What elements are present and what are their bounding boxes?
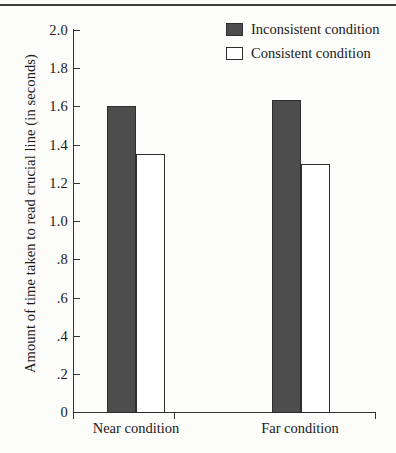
legend-swatch-dark-icon — [226, 23, 243, 36]
legend-label-consistent: Consistent condition — [251, 46, 371, 61]
x-label-far-condition: Far condition — [261, 421, 339, 436]
legend-swatch-light-icon — [226, 47, 243, 60]
y-label-2-0: 2.0 — [28, 23, 68, 38]
y-label-0: 0 — [28, 405, 68, 420]
y-tick-0-6 — [73, 298, 80, 299]
y-label-1-0: 1.0 — [28, 214, 68, 229]
bar-chart-figure: Amount of time taken to read crucial lin… — [0, 0, 396, 453]
bar-far-consistent — [301, 164, 330, 413]
y-tick-1-2 — [73, 183, 80, 184]
y-label-0-4: .4 — [28, 329, 68, 344]
y-label-1-8: 1.8 — [28, 61, 68, 76]
x-tick-mid — [174, 412, 175, 419]
y-label-0-2: .2 — [28, 367, 68, 382]
legend-item-consistent: Consistent condition — [226, 42, 379, 64]
y-tick-0-2 — [73, 374, 80, 375]
y-tick-2-0 — [73, 30, 80, 31]
y-label-1-6: 1.6 — [28, 99, 68, 114]
y-tick-0-8 — [73, 259, 80, 260]
x-tick-left — [73, 412, 74, 419]
bar-near-consistent — [136, 154, 165, 413]
y-tick-1-0 — [73, 221, 80, 222]
y-axis-labels: 2.0 1.8 1.6 1.4 1.2 1.0 .8 .6 .4 .2 0 — [22, 0, 68, 453]
legend-item-inconsistent: Inconsistent condition — [226, 18, 379, 40]
x-label-near-condition: Near condition — [93, 421, 180, 436]
bar-far-inconsistent — [272, 100, 301, 413]
y-tick-1-8 — [73, 68, 80, 69]
y-tick-1-6 — [73, 106, 80, 107]
x-tick-right — [375, 412, 376, 419]
legend-label-inconsistent: Inconsistent condition — [251, 22, 379, 37]
y-label-0-8: .8 — [28, 252, 68, 267]
y-label-0-6: .6 — [28, 291, 68, 306]
y-label-1-4: 1.4 — [28, 138, 68, 153]
y-label-1-2: 1.2 — [28, 176, 68, 191]
bar-near-inconsistent — [107, 106, 136, 413]
y-tick-0-4 — [73, 336, 80, 337]
chart-legend: Inconsistent condition Consistent condit… — [226, 18, 379, 66]
y-tick-1-4 — [73, 145, 80, 146]
